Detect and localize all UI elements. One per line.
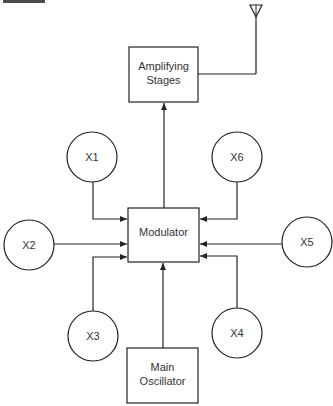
oscillator-label-line1: Main [151, 361, 175, 373]
input-x1: X1 [67, 132, 127, 219]
amplifying-stages-block: Amplifying Stages [129, 47, 198, 102]
x1-label: X1 [85, 151, 98, 163]
modulator-block-diagram: Amplifying Stages Modulator Main Oscilla… [0, 0, 333, 406]
input-x2: X2 [4, 220, 127, 270]
antenna-icon [198, 5, 262, 74]
amplifying-label-line2: Stages [146, 74, 181, 86]
modulator-label: Modulator [139, 226, 188, 238]
x4-label: X4 [230, 327, 243, 339]
x5-label: X5 [300, 236, 313, 248]
x6-label: X6 [230, 151, 243, 163]
x3-label: X3 [86, 330, 99, 342]
input-x4: X4 [200, 256, 262, 358]
main-oscillator-block: Main Oscillator [127, 348, 198, 403]
modulator-block: Modulator [128, 208, 199, 262]
input-x3: X3 [68, 257, 127, 361]
input-x5: X5 [200, 217, 332, 267]
oscillator-label-line2: Oscillator [140, 375, 186, 387]
input-x6: X6 [200, 132, 262, 219]
amplifying-label-line1: Amplifying [138, 60, 189, 72]
x2-label: X2 [22, 239, 35, 251]
